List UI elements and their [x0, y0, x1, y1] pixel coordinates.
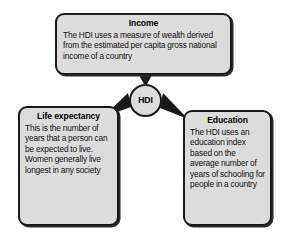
hub-node-hdi: HDI — [129, 84, 162, 117]
node-education-title: Education — [190, 115, 265, 126]
node-life-expectancy-body: This is the number of years that a perso… — [25, 123, 112, 176]
node-life-expectancy-title: Life expectancy — [25, 111, 112, 122]
node-education: Education The HDI uses an education inde… — [183, 110, 272, 226]
hub-node-hdi-label: HDI — [138, 96, 153, 105]
node-income-title: Income — [62, 18, 225, 29]
hdi-concept-diagram: Income The HDI uses a measure of wealth … — [0, 0, 290, 234]
node-income: Income The HDI uses a measure of wealth … — [55, 13, 232, 75]
node-income-body: The HDI uses a measure of wealth derived… — [62, 30, 225, 62]
node-life-expectancy: Life expectancy This is the number of ye… — [18, 106, 119, 226]
node-education-body: The HDI uses an education index based on… — [190, 127, 265, 191]
